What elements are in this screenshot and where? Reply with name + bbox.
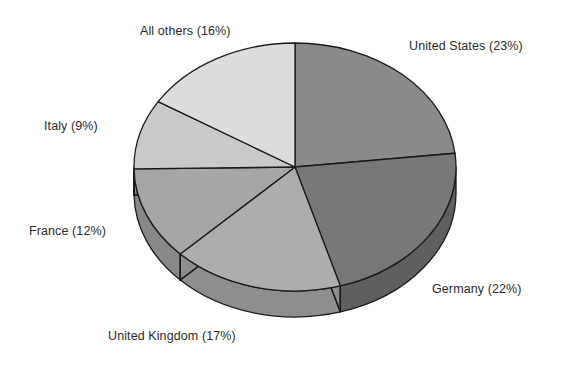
pie-label-france: France (12%) [29, 225, 106, 239]
pie-chart-canvas [0, 0, 578, 367]
pie-label-italy: Italy (9%) [44, 120, 98, 134]
pie-chart-figure: United States (23%) Germany (22%) United… [0, 0, 578, 367]
chart-page: United States (23%) Germany (22%) United… [0, 0, 578, 367]
pie-label-united-states: United States (23%) [409, 40, 523, 54]
pie-slice-united-states [295, 43, 455, 167]
pie-label-germany: Germany (22%) [432, 283, 522, 297]
pie-label-united-kingdom: United Kingdom (17%) [108, 330, 236, 344]
pie-slice-tops [134, 43, 456, 291]
pie-label-all-others: All others (16%) [140, 25, 231, 39]
